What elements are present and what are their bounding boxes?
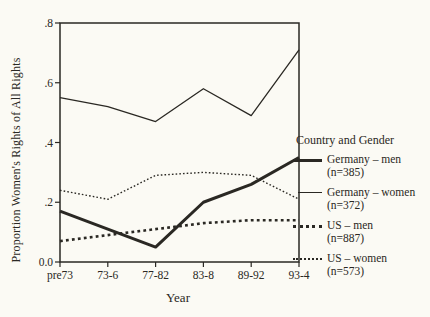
scanned-figure-page: .8.6.4.20.0pre7373-677-8283-889-9293-4 P… xyxy=(0,0,430,317)
thin-solid-line-swatch xyxy=(298,192,322,193)
x-tick-label: 89-92 xyxy=(238,269,265,281)
legend-label-us-men: US – men xyxy=(327,219,373,232)
legend-item-us-men: US – men (n=887) xyxy=(293,219,429,245)
legend-n-us-men: (n=887) xyxy=(327,232,373,245)
y-tick-label: .2 xyxy=(44,196,53,208)
thick-dotted-line-swatch xyxy=(293,225,322,228)
legend-label-us-women: US – women xyxy=(327,252,387,265)
y-tick-label: .4 xyxy=(44,137,53,149)
series-line-germany-men xyxy=(60,157,299,247)
x-tick-label: 73-6 xyxy=(97,269,118,281)
y-axis-title: Proportion Women's Rights of All Rights xyxy=(9,57,24,262)
legend-n-germany-women: (n=372) xyxy=(327,199,415,212)
y-tick-label: .8 xyxy=(44,17,53,29)
legend-n-germany-men: (n=385) xyxy=(327,166,401,179)
y-tick-label: 0.0 xyxy=(39,256,54,268)
legend-label-germany-men: Germany – men xyxy=(327,153,401,166)
x-axis-title: Year xyxy=(166,290,190,306)
x-tick-label: 83-8 xyxy=(193,269,214,281)
y-tick-label: .6 xyxy=(44,77,53,89)
x-tick-label: pre73 xyxy=(47,269,73,282)
thick-solid-line-swatch xyxy=(293,159,322,162)
legend-title: Country and Gender xyxy=(296,134,429,147)
fine-dotted-line-swatch xyxy=(293,258,322,260)
legend-item-us-women: US – women (n=573) xyxy=(293,252,429,278)
legend-item-germany-men: Germany – men (n=385) xyxy=(293,153,429,179)
legend-label-germany-women: Germany – women xyxy=(327,186,415,199)
legend-item-germany-women: Germany – women (n=372) xyxy=(293,186,429,212)
legend-n-us-women: (n=573) xyxy=(327,265,387,278)
x-tick-label: 77-82 xyxy=(142,269,169,281)
chart-legend: Country and Gender Germany – men (n=385)… xyxy=(293,134,429,285)
series-line-germany-women xyxy=(60,50,299,122)
